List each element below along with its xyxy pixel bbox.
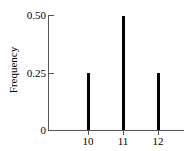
x-axis-line [48,130,184,131]
bar-11 [122,16,125,130]
y-tick-label-025: 0.25 [27,68,46,79]
x-tick-label-11: 11 [111,135,135,147]
x-tick-label-12: 12 [146,135,170,147]
frequency-bar-chart: Frequency 0.50 0.25 0 10 11 12 [0,0,185,151]
y-tick-mark-025 [49,73,54,74]
y-tick-mark-050 [49,15,54,16]
bar-10 [87,73,90,130]
x-tick-label-10: 10 [76,135,100,147]
y-tick-mark-0 [49,130,54,131]
bar-12 [157,73,160,130]
y-axis-title: Frequency [6,30,20,110]
y-tick-label-050: 0.50 [27,10,46,21]
y-tick-label-0: 0 [41,125,47,136]
